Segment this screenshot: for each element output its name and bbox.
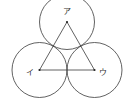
label-a: ア	[63, 7, 71, 16]
vertex-dot-a	[66, 21, 68, 23]
vertex-dot-u	[93, 69, 95, 71]
label-i: イ	[26, 68, 34, 77]
diagram-canvas: ア イ ウ	[0, 0, 125, 107]
vertex-dot-i	[38, 69, 40, 71]
label-u: ウ	[99, 68, 107, 77]
triangle	[40, 22, 95, 70]
